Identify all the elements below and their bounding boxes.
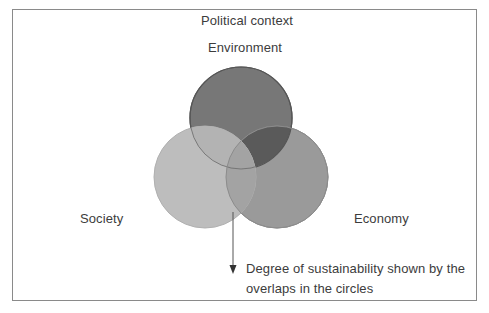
annotation-line-2: overlaps in the circles bbox=[246, 281, 373, 296]
arrow-head-icon bbox=[230, 265, 237, 274]
sustainability-annotation: Degree of sustainability shown by the ov… bbox=[246, 259, 476, 299]
annotation-line-1: Degree of sustainability shown by the bbox=[246, 261, 465, 276]
